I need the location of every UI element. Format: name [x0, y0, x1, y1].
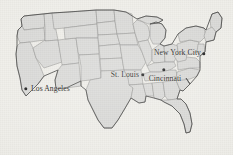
city-layer: Los Angeles St. Louis Cincinnati New Yor… — [0, 0, 233, 155]
city-marker-cincinnati — [162, 68, 165, 71]
city-marker-los-angeles — [24, 87, 27, 90]
city-marker-st-louis — [141, 73, 144, 76]
us-map-figure: Los Angeles St. Louis Cincinnati New Yor… — [0, 0, 233, 155]
city-label-cincinnati: Cincinnati — [149, 75, 182, 83]
city-label-los-angeles: Los Angeles — [31, 85, 70, 93]
city-marker-new-york-city — [202, 52, 205, 55]
city-label-new-york-city: New York City — [154, 49, 201, 57]
city-label-st-louis: St. Louis — [111, 71, 139, 79]
